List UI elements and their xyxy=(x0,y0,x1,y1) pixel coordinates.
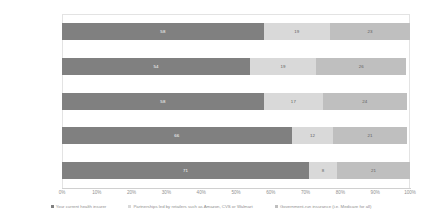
bar-value-label: 24 xyxy=(362,99,367,104)
x-tick-label: 70% xyxy=(301,190,310,195)
x-tick-label: 20% xyxy=(127,190,136,195)
bar-segment: 26 xyxy=(316,58,406,75)
bar-value-label: 12 xyxy=(310,133,315,138)
bar-value-label: 19 xyxy=(294,29,299,34)
x-tick-label: 30% xyxy=(162,190,171,195)
bar-segment: 17 xyxy=(264,93,323,110)
bar-segment: 23 xyxy=(330,23,410,40)
bar-value-label: 17 xyxy=(291,99,296,104)
bar-segment: 19 xyxy=(250,58,316,75)
bar-segment: 54 xyxy=(62,58,250,75)
legend-item-label: Partnerships led by retailers such as Am… xyxy=(133,204,252,209)
bar-value-label: 21 xyxy=(367,133,372,138)
bar-row: 71821 xyxy=(62,162,410,179)
bar-segment: 58 xyxy=(62,93,264,110)
bar-segment: 24 xyxy=(323,93,407,110)
bar-segment: 58 xyxy=(62,23,264,40)
bar-rows: Total581923Millennial541926Generation X5… xyxy=(62,14,410,188)
legend-item[interactable]: Government-run insurance (i.e. Medicare … xyxy=(275,204,372,209)
bar-row: 661221 xyxy=(62,127,410,144)
x-axis-tick-labels: 0%10%20%30%40%50%60%70%80%90%100% xyxy=(62,190,410,200)
stacked-bar-chart: Total581923Millennial541926Generation X5… xyxy=(0,0,422,223)
x-tick-label: 60% xyxy=(266,190,275,195)
legend-item[interactable]: Partnerships led by retailers such as Am… xyxy=(128,204,252,209)
x-tick-label: 0% xyxy=(59,190,66,195)
bar-segment: 66 xyxy=(62,127,292,144)
bar-segment: 12 xyxy=(292,127,334,144)
bar-value-label: 58 xyxy=(160,29,165,34)
bar-value-label: 26 xyxy=(359,64,364,69)
x-axis-line xyxy=(62,188,411,189)
x-tick-label: 80% xyxy=(336,190,345,195)
legend-swatch-icon xyxy=(275,205,278,208)
x-tick-label: 40% xyxy=(197,190,206,195)
x-tick-label: 90% xyxy=(371,190,380,195)
bar-value-label: 8 xyxy=(322,168,325,173)
bar-value-label: 54 xyxy=(153,64,158,69)
legend-item-label: Government-run insurance (i.e. Medicare … xyxy=(280,204,371,209)
bar-segment: 21 xyxy=(337,162,410,179)
legend-swatch-icon xyxy=(51,205,54,208)
legend-swatch-icon xyxy=(128,205,131,208)
bar-row: 581923 xyxy=(62,23,410,40)
bar-value-label: 66 xyxy=(174,133,179,138)
bar-segment: 71 xyxy=(62,162,309,179)
bar-segment: 8 xyxy=(309,162,337,179)
bar-value-label: 58 xyxy=(160,99,165,104)
legend-item[interactable]: Your current health insurer xyxy=(51,204,107,209)
bar-row: 581724 xyxy=(62,93,410,110)
bar-segment: 19 xyxy=(264,23,330,40)
bar-value-label: 19 xyxy=(280,64,285,69)
x-tick-label: 10% xyxy=(92,190,101,195)
x-tick-label: 50% xyxy=(231,190,240,195)
bar-row: 541926 xyxy=(62,58,410,75)
chart-legend: Your current health insurerPartnerships … xyxy=(0,204,422,209)
bar-value-label: 21 xyxy=(371,168,376,173)
bar-segment: 21 xyxy=(333,127,406,144)
x-tick-label: 100% xyxy=(404,190,416,195)
legend-item-label: Your current health insurer xyxy=(56,204,106,209)
bar-value-label: 71 xyxy=(183,168,188,173)
bar-value-label: 23 xyxy=(367,29,372,34)
